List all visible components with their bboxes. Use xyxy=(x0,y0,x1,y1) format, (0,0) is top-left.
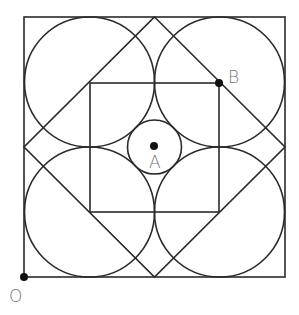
point-O xyxy=(20,273,28,281)
label-A: A xyxy=(149,152,161,172)
label-B: B xyxy=(228,67,239,87)
point-B xyxy=(215,79,223,87)
point-A xyxy=(150,142,158,150)
geometry-diagram: O A B xyxy=(0,0,299,315)
label-O: O xyxy=(9,286,22,306)
